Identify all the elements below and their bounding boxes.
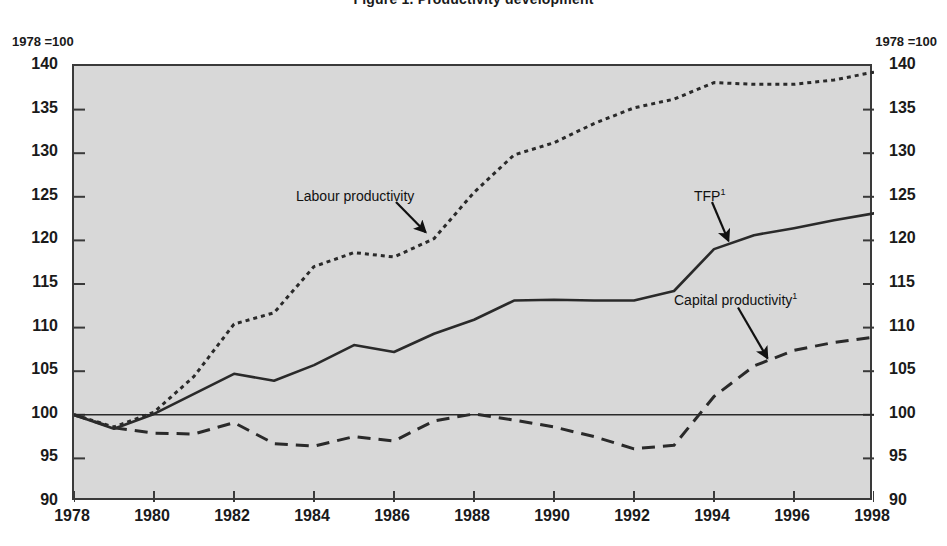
unit-caption-left: 1978 =100 (12, 34, 74, 49)
x-tick-1982: 1982 (214, 508, 250, 524)
y-tick-left-140: 140 (31, 56, 58, 72)
x-tick-1980: 1980 (134, 508, 170, 524)
x-tick-1988: 1988 (454, 508, 490, 524)
series-label-capital-text: Capital productivity (674, 292, 792, 308)
y-tick-right-140: 140 (889, 56, 916, 72)
y-tick-left-110: 110 (32, 318, 58, 334)
annotation-arrow-tfp (712, 202, 728, 241)
y-tick-right-115: 115 (889, 274, 915, 290)
y-tick-left-115: 115 (32, 274, 58, 290)
y-tick-left-120: 120 (31, 230, 58, 246)
series-line-tfp (74, 213, 874, 428)
series-label-labour-productivity: Labour productivity (296, 189, 414, 203)
series-label-capital-footnote: 1 (792, 291, 797, 301)
unit-caption-right: 1978 =100 (875, 34, 937, 49)
productivity-chart-figure: Figure 1. Productivity development 1978 … (0, 0, 947, 546)
x-tick-1994: 1994 (694, 508, 730, 524)
y-tick-right-95: 95 (889, 448, 907, 464)
x-tick-1984: 1984 (294, 508, 330, 524)
y-tick-right-100: 100 (889, 405, 916, 421)
y-tick-left-100: 100 (31, 405, 58, 421)
x-tick-1990: 1990 (534, 508, 570, 524)
y-tick-right-125: 125 (889, 187, 916, 203)
x-tick-1992: 1992 (614, 508, 650, 524)
series-label-capital-productivity: Capital productivity1 (674, 293, 797, 307)
y-tick-right-110: 110 (889, 318, 915, 334)
y-tick-right-90: 90 (889, 492, 907, 508)
x-tick-1996: 1996 (774, 508, 810, 524)
series-label-tfp-footnote: 1 (720, 187, 725, 197)
figure-title: Figure 1. Productivity development (0, 0, 947, 7)
x-tick-1978: 1978 (54, 508, 90, 524)
y-tick-left-135: 135 (31, 100, 58, 116)
series-line-labour-productivity (74, 72, 874, 427)
y-tick-left-95: 95 (40, 448, 58, 464)
y-tick-right-130: 130 (889, 143, 916, 159)
annotation-arrow-capital (738, 308, 767, 359)
x-tick-1998: 1998 (854, 508, 890, 524)
plot-area (72, 64, 872, 500)
y-tick-right-105: 105 (889, 361, 916, 377)
plot-canvas (74, 66, 874, 502)
y-tick-left-125: 125 (31, 187, 58, 203)
y-tick-left-130: 130 (31, 143, 58, 159)
annotation-arrow-labour (396, 202, 426, 232)
series-label-labour-text: Labour productivity (296, 188, 414, 204)
series-label-tfp: TFP1 (694, 189, 725, 203)
x-tick-1986: 1986 (374, 508, 410, 524)
y-tick-left-105: 105 (31, 361, 58, 377)
y-tick-right-120: 120 (889, 230, 916, 246)
y-tick-right-135: 135 (889, 100, 916, 116)
series-label-tfp-text: TFP (694, 188, 720, 204)
y-tick-left-90: 90 (40, 492, 58, 508)
